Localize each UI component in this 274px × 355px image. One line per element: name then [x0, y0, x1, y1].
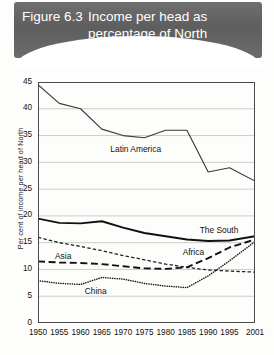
- series-label-asia: Asia: [55, 251, 71, 261]
- plot-area: Latin AmericaThe SouthAfricaAsiaChina: [38, 82, 255, 323]
- series-label-china: China: [85, 286, 107, 296]
- series-label-africa: Africa: [183, 247, 204, 257]
- line-chart: Per cent of income per head of North 051…: [0, 66, 274, 355]
- figure-number: Figure 6.3: [22, 9, 83, 24]
- series-label-the-south: The South: [200, 225, 239, 235]
- series-label-latin-america: Latin America: [110, 144, 161, 154]
- figure-title-line-2: percentage of North: [88, 26, 207, 41]
- x-tick-2001: 2001: [238, 328, 272, 337]
- plot-border: [38, 82, 255, 323]
- figure-title-line-1: Income per head as: [88, 9, 207, 24]
- figure-panel: Figure 6.3 Income per head as percentage…: [0, 0, 274, 355]
- figure-title-banner: Figure 6.3 Income per head as percentage…: [0, 0, 274, 68]
